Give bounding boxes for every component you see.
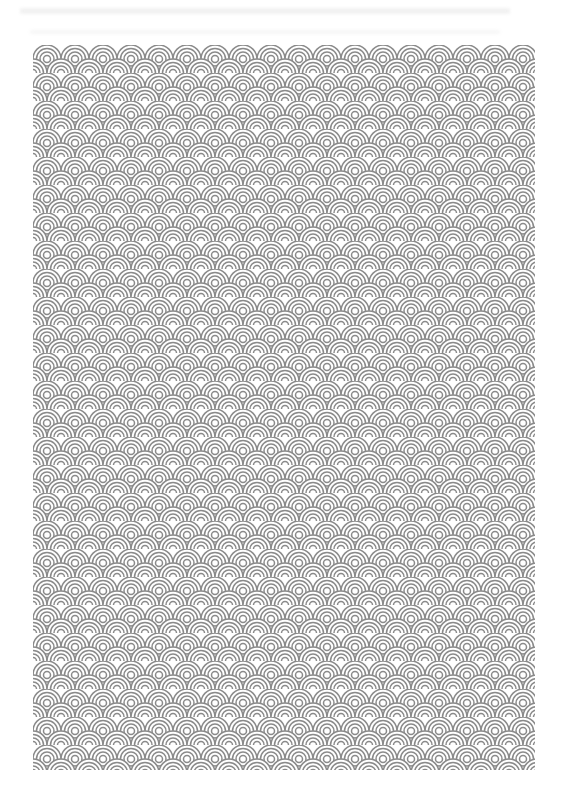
seigaiha-pattern-panel [33,45,535,770]
pattern-fill [33,45,535,770]
header-bleed-through-text-secondary [30,30,500,34]
seigaiha-wave-pattern [33,45,535,770]
header-bleed-through-text [20,8,510,14]
